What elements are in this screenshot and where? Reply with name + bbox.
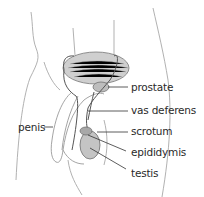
label-scrotum: scrotum bbox=[131, 125, 172, 137]
label-epididymis: epididymis bbox=[131, 146, 186, 158]
anatomy-diagram: prostate vas deferens scrotum epididymis… bbox=[0, 0, 204, 197]
bladder bbox=[63, 52, 129, 84]
leader-testis bbox=[90, 148, 126, 169]
anatomy-illustration bbox=[0, 0, 204, 197]
label-testis: testis bbox=[131, 167, 158, 179]
label-prostate: prostate bbox=[131, 81, 173, 93]
label-penis: penis bbox=[18, 121, 45, 133]
label-vas-deferens: vas deferens bbox=[131, 104, 196, 116]
epididymis bbox=[80, 127, 92, 135]
